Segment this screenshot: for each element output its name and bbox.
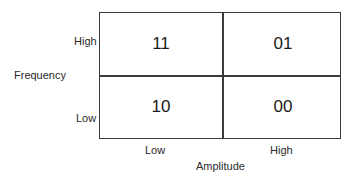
y-axis-title: Frequency — [14, 69, 66, 81]
cell-low-frequency-low-amplitude: 10 — [100, 76, 222, 138]
quadrant-grid: 11 01 10 00 — [99, 12, 341, 139]
cell-low-frequency-high-amplitude: 00 — [222, 76, 344, 138]
x-axis-title: Amplitude — [196, 160, 245, 172]
row-label-low: Low — [76, 112, 96, 124]
col-label-low: Low — [145, 144, 165, 156]
row-label-high: High — [74, 35, 97, 47]
cell-high-frequency-low-amplitude: 11 — [100, 13, 222, 75]
col-label-high: High — [270, 144, 293, 156]
cell-high-frequency-high-amplitude: 01 — [222, 13, 344, 75]
